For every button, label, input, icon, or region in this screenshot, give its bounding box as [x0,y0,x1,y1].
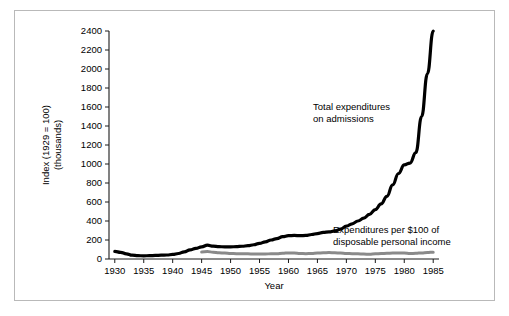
x-tick-label: 1930 [104,265,125,276]
y-tick-label: 1400 [81,120,102,131]
y-tick-label: 400 [86,215,102,226]
chart-figure: 0200400600800100012001400160018002000220… [0,0,509,316]
x-axis-title: Year [264,280,283,291]
y-axis-title-line1: Index (1929 = 100) [40,105,51,185]
y-axis: 0200400600800100012001400160018002000220… [81,25,109,264]
x-tick-label: 1965 [307,265,328,276]
series-annotation-perincome-line1: Expenditures per $100 of [333,224,440,235]
y-tick-label: 2400 [81,25,102,36]
x-tick-label: 1970 [336,265,357,276]
y-tick-label: 0 [97,253,102,264]
y-tick-label: 1000 [81,158,102,169]
x-tick-label: 1935 [133,265,154,276]
series-line-total-expenditures [115,31,433,256]
series-line-expenditures-per-100 [202,252,434,255]
x-axis: 1930193519401945195019551960196519701975… [104,259,444,276]
x-tick-label: 1975 [365,265,386,276]
x-tick-label: 1955 [249,265,270,276]
series-annotation-perincome-line2: disposable personal income [333,236,451,247]
series-annotation-total-line2: on admissions [313,113,374,124]
y-tick-label: 1600 [81,101,102,112]
x-axis-tick-labels: 1930193519401945195019551960196519701975… [104,265,444,276]
x-tick-label: 1940 [162,265,183,276]
y-axis-ticks [105,31,109,259]
series-annotation-total-line1: Total expenditures [313,101,390,112]
chart-series-group [115,31,433,256]
y-tick-label: 1200 [81,139,102,150]
x-tick-label: 1945 [191,265,212,276]
chart-frame: 0200400600800100012001400160018002000220… [14,10,495,301]
x-tick-label: 1960 [278,265,299,276]
y-tick-label: 200 [86,234,102,245]
axis-titles: Index (1929 = 100) (thousands) Year [40,105,284,291]
chart-plot-area: 0200400600800100012001400160018002000220… [15,11,494,300]
x-tick-label: 1985 [423,265,444,276]
x-axis-ticks [115,259,433,263]
chart-annotations: Total expenditures on admissions Expendi… [313,101,451,247]
x-tick-label: 1980 [394,265,415,276]
y-tick-label: 1800 [81,82,102,93]
x-tick-label: 1950 [220,265,241,276]
y-axis-tick-labels: 0200400600800100012001400160018002000220… [81,25,102,264]
y-tick-label: 2000 [81,63,102,74]
y-axis-title-line2: (thousands) [52,120,63,170]
y-tick-label: 600 [86,196,102,207]
y-tick-label: 800 [86,177,102,188]
y-tick-label: 2200 [81,44,102,55]
